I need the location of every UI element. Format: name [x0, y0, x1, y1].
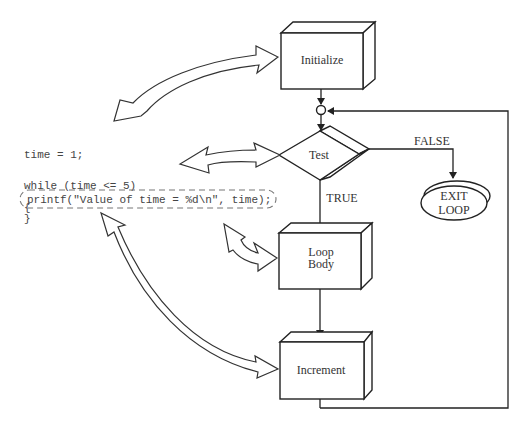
test-decision: Test	[279, 126, 369, 180]
code-line-close-brace: }	[24, 213, 31, 225]
exit-label-2: LOOP	[438, 203, 470, 217]
loop-body-label-2: Body	[308, 257, 334, 271]
init-correspondence-arrow	[114, 46, 278, 121]
false-label: FALSE	[414, 134, 450, 148]
test-label: Test	[309, 148, 329, 162]
false-branch	[369, 149, 453, 178]
loop-body-box: Loop Body	[279, 223, 372, 289]
exit-loop-terminal: EXIT LOOP	[421, 181, 490, 220]
code-line-init: time = 1;	[24, 149, 83, 161]
increment-box: Increment	[280, 332, 372, 399]
junction-node	[317, 106, 326, 115]
increment-correspondence-arrow	[101, 213, 278, 378]
exit-label-1: EXIT	[440, 189, 468, 203]
true-label: TRUE	[326, 191, 357, 205]
code-line-printf: printf("Value of time = %d\n", time);	[27, 194, 271, 206]
increment-label: Increment	[297, 363, 346, 377]
for-loop-flowchart: time = 1; while (time <= 5) { printf("Va…	[0, 0, 529, 448]
initialize-label: Initialize	[301, 53, 344, 67]
body-correspondence-arrow	[224, 224, 277, 271]
test-correspondence-arrow	[180, 143, 280, 173]
initialize-box: Initialize	[281, 22, 375, 89]
